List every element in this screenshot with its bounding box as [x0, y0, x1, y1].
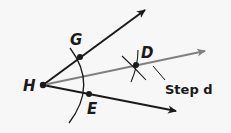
step-d-annotation: Step d [165, 82, 213, 97]
label-H: H [23, 77, 36, 95]
construction-figure: H G E D Step d [0, 0, 231, 133]
point-E [86, 91, 92, 97]
diagram-canvas: H G E D Step d [0, 0, 231, 133]
ray-HE [43, 85, 176, 111]
point-H [40, 82, 46, 88]
label-D: D [141, 44, 153, 62]
point-D [133, 62, 139, 68]
label-E: E [87, 100, 98, 118]
step-d-leader-line [153, 66, 165, 80]
label-G: G [70, 31, 82, 49]
point-G [77, 54, 83, 60]
